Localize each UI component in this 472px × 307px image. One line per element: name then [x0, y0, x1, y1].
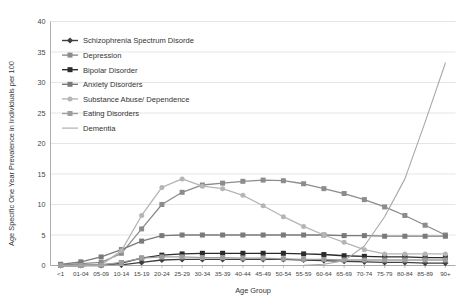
x-tick-label: 45-49 [255, 270, 271, 277]
series-substance-abuse-dependence [58, 176, 448, 268]
data-point-marker [180, 176, 185, 181]
data-point-marker [362, 258, 367, 263]
legend-label: Schizophrenia Spectrum Disorde [83, 36, 194, 45]
data-point-marker [119, 260, 124, 265]
x-tick-label: 01-04 [73, 270, 89, 277]
data-point-marker [139, 256, 144, 261]
x-tick-label: 75-79 [377, 270, 393, 277]
data-point-marker [220, 233, 225, 238]
x-tick-label: 70-74 [356, 270, 372, 277]
x-tick-label: 15-19 [134, 270, 150, 277]
legend-label: Bipolar Disorder [83, 66, 138, 75]
data-point-marker [423, 258, 428, 263]
legend-item: Depression [62, 51, 121, 60]
data-point-marker [382, 258, 387, 263]
data-point-marker [342, 240, 347, 245]
x-tick-label: 05-09 [93, 270, 109, 277]
x-tick-label: 35-39 [215, 270, 231, 277]
y-axis-title: Age Specific One Year Prevalence in Indi… [7, 61, 16, 246]
chart-canvas: 0510152025303540 <101-0405-0910-1415-192… [0, 0, 472, 307]
data-point-marker [321, 257, 326, 262]
x-tick-label: 40-44 [235, 270, 251, 277]
data-point-marker [281, 233, 286, 238]
chart-legend: Schizophrenia Spectrum DisordeDepression… [62, 36, 194, 133]
data-point-marker [240, 233, 245, 238]
legend-item: Dementia [62, 124, 116, 133]
x-tick-label: 30-34 [194, 270, 210, 277]
data-point-marker [200, 251, 205, 256]
data-point-marker [261, 233, 266, 238]
y-tick-label: 15 [38, 170, 46, 179]
data-point-marker [68, 67, 73, 72]
data-point-marker [402, 258, 407, 263]
prevalence-line-chart: 0510152025303540 <101-0405-0910-1415-192… [0, 0, 472, 307]
x-axis-ticks: <101-0405-0910-1415-1920-2425-2930-3435-… [57, 266, 451, 278]
data-point-marker [382, 251, 387, 256]
data-point-marker [281, 256, 286, 261]
y-tick-label: 40 [38, 17, 46, 26]
legend-label: Dementia [83, 124, 116, 133]
data-point-marker [362, 233, 367, 238]
data-point-marker [423, 223, 428, 228]
data-point-marker [139, 239, 144, 244]
y-tick-label: 35 [38, 48, 46, 57]
y-tick-label: 5 [42, 231, 46, 240]
data-point-marker [159, 185, 164, 190]
y-axis-ticks: 0510152025303540 [38, 17, 46, 270]
data-point-marker [68, 111, 73, 116]
data-point-marker [261, 256, 266, 261]
data-point-marker [402, 213, 407, 218]
data-point-marker [362, 197, 367, 202]
data-point-marker [99, 262, 104, 267]
data-point-marker [200, 233, 205, 238]
x-tick-label: 65-69 [336, 270, 352, 277]
data-point-marker [342, 191, 347, 196]
x-tick-label: <1 [57, 270, 65, 277]
data-point-marker [301, 181, 306, 186]
series-anxiety-disorders [58, 233, 448, 267]
series-line [61, 257, 446, 266]
legend-label: Eating Disorders [83, 109, 139, 118]
data-point-marker [443, 234, 448, 239]
series-line [61, 179, 446, 266]
legend-label: Substance Abuse/ Dependence [83, 95, 189, 104]
data-point-marker [281, 178, 286, 183]
data-point-marker [402, 234, 407, 239]
data-point-marker [200, 255, 205, 260]
data-point-marker [240, 256, 245, 261]
x-tick-label: 85-89 [417, 270, 433, 277]
data-point-marker [261, 203, 266, 208]
data-point-marker [423, 234, 428, 239]
x-axis-title: Age Group [235, 286, 271, 295]
data-point-marker [321, 186, 326, 191]
data-point-marker [301, 251, 306, 256]
data-point-marker [321, 233, 326, 238]
y-tick-label: 0 [42, 261, 46, 270]
data-point-marker [240, 179, 245, 184]
legend-item: Anxiety Disorders [62, 80, 143, 89]
data-point-marker [68, 96, 73, 101]
data-point-marker [342, 253, 347, 258]
data-point-marker [261, 178, 266, 183]
data-point-marker [321, 252, 326, 257]
data-point-marker [220, 251, 225, 256]
data-point-marker [99, 254, 104, 259]
y-tick-label: 20 [38, 139, 46, 148]
data-point-marker [240, 193, 245, 198]
data-point-marker [67, 37, 73, 43]
data-point-marker [119, 248, 124, 253]
data-point-marker [220, 181, 225, 186]
data-point-marker [68, 53, 73, 58]
data-point-marker [139, 226, 144, 231]
data-point-marker [443, 251, 448, 256]
data-point-marker [301, 257, 306, 262]
data-point-marker [423, 251, 428, 256]
data-point-marker [139, 213, 144, 218]
data-point-marker [159, 254, 164, 259]
x-tick-label: 25-29 [174, 270, 190, 277]
y-tick-label: 10 [38, 200, 46, 209]
x-tick-label: 20-24 [154, 270, 170, 277]
data-point-marker [180, 190, 185, 195]
data-point-marker [301, 233, 306, 238]
data-point-marker [281, 214, 286, 219]
